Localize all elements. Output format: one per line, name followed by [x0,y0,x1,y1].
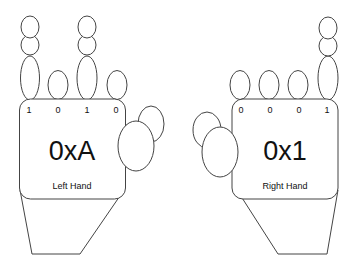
right-hand-label: Right Hand [262,181,307,191]
left-hand-label: Left Hand [52,181,91,191]
right-wrist [237,190,338,254]
left-finger-2 [48,71,68,100]
left-finger-4 [107,71,127,100]
left-bit-1: 1 [26,105,31,115]
left-wrist [20,190,124,254]
right-hex-value: 0x1 [263,136,307,166]
left-bit-4: 0 [113,105,118,115]
left-finger-1-tip [21,16,39,38]
right-bit-1: 0 [238,105,243,115]
right-finger-4-tip [319,17,337,39]
left-finger-3-tip [78,16,96,38]
left-bit-3: 1 [84,105,89,115]
left-finger-1-base [21,56,40,100]
right-thumb-base [202,127,238,177]
right-bit-4: 1 [324,105,329,115]
left-finger-3-base [77,56,97,100]
left-bit-2: 0 [55,105,60,115]
left-hex-value: 0xA [49,136,96,166]
right-finger-2 [259,71,279,100]
binary-hands-diagram: 1 0 1 0 0xA Left Hand 0 0 0 1 0x1 Right … [0,0,353,269]
left-hand [20,16,165,254]
right-bit-2: 0 [267,105,272,115]
right-bit-3: 0 [296,105,301,115]
left-thumb-base [118,121,154,171]
right-finger-3 [288,71,308,100]
right-finger-1 [230,71,250,100]
right-finger-4-base [318,56,338,100]
